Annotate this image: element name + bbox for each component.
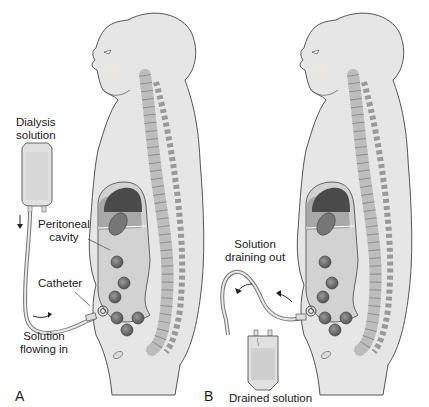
dialysis-solution-label: Dialysis solution [16, 116, 56, 142]
catheter-leader-line [75, 292, 90, 306]
panel-a-letter: A [15, 388, 24, 404]
drain-arrow-icon [235, 284, 252, 294]
solution-draining-out-label: Solution draining out [225, 238, 285, 264]
flow-in-arrow-icon [33, 312, 52, 318]
panel-b-letter: B [204, 388, 213, 404]
dialysis-bag [22, 143, 52, 212]
flow-out-arrow-icon [276, 290, 292, 302]
down-arrow-icon [17, 215, 23, 229]
panel-b-figure [222, 13, 412, 395]
drained-bag [248, 330, 278, 390]
solution-flowing-in-label: Solution flowing in [20, 330, 68, 356]
catheter-label: Catheter [38, 277, 82, 290]
peritoneal-cavity-label: Peritoneal cavity [38, 218, 90, 244]
drained-solution-label: Drained solution [229, 392, 312, 405]
